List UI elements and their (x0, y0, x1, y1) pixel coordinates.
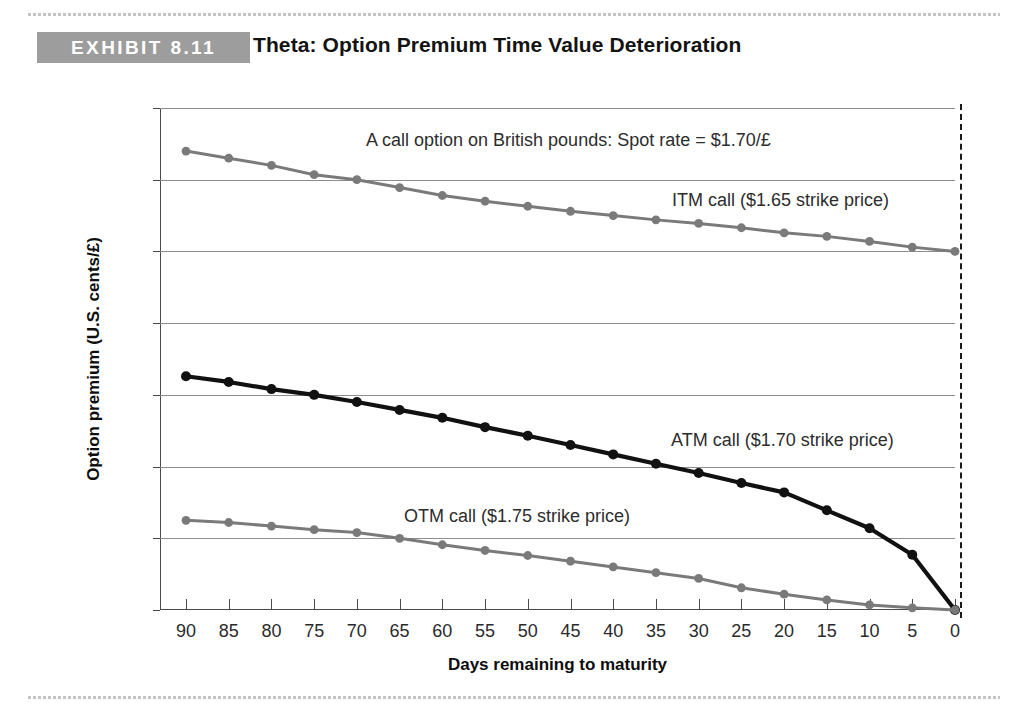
data-point-marker (908, 243, 917, 252)
data-point-marker (310, 170, 319, 179)
data-point-marker (310, 525, 319, 534)
x-axis-tick-label: 40 (593, 621, 633, 642)
data-point-marker (267, 522, 276, 531)
data-point-marker (694, 219, 703, 228)
data-point-marker (309, 390, 319, 400)
data-point-marker (181, 371, 191, 381)
data-point-marker (182, 516, 191, 525)
x-axis-tick-label: 75 (294, 621, 334, 642)
data-point-marker (822, 232, 831, 241)
data-point-marker (566, 440, 576, 450)
data-point-marker (737, 583, 746, 592)
data-point-marker (737, 223, 746, 232)
x-axis-tick-label: 30 (679, 621, 719, 642)
data-point-marker (481, 546, 490, 555)
data-point-marker (652, 568, 661, 577)
data-point-marker (609, 211, 618, 220)
data-point-marker (951, 247, 960, 256)
data-point-marker (437, 413, 447, 423)
data-point-marker (224, 377, 234, 387)
data-point-marker (907, 550, 917, 560)
data-point-marker (523, 431, 533, 441)
x-axis-tick-label: 50 (508, 621, 548, 642)
data-point-marker (224, 154, 233, 163)
data-point-marker (694, 574, 703, 583)
series-atm (181, 371, 960, 615)
data-point-marker (438, 540, 447, 549)
x-axis-tick-label: 5 (892, 621, 932, 642)
data-point-marker (865, 523, 875, 533)
data-point-marker (438, 191, 447, 200)
annotation-spot-rate: A call option on British pounds: Spot ra… (366, 130, 771, 151)
series-otm (182, 516, 960, 614)
x-axis-tick-label: 60 (422, 621, 462, 642)
data-point-marker (780, 228, 789, 237)
data-point-marker (609, 563, 618, 572)
data-point-marker (566, 557, 575, 566)
x-axis-tick-label: 80 (251, 621, 291, 642)
maturity-dashed-line (960, 104, 962, 618)
x-axis-tick-label: 35 (636, 621, 676, 642)
data-point-marker (908, 603, 917, 612)
y-axis-tick-mark (153, 538, 160, 539)
data-point-marker (395, 405, 405, 415)
data-point-marker (395, 534, 404, 543)
x-axis-tick-label: 10 (850, 621, 890, 642)
data-point-marker (651, 459, 661, 469)
data-point-marker (182, 147, 191, 156)
x-axis-tick-label: 20 (764, 621, 804, 642)
chart-plot-area: 0.01.02.03.04.05.06.07.0 908580757065605… (160, 108, 955, 610)
annotation-atm-label: ATM call ($1.70 strike price) (671, 430, 894, 451)
data-point-marker (822, 596, 831, 605)
x-axis-title: Days remaining to maturity (160, 655, 955, 675)
data-point-marker (779, 487, 789, 497)
y-axis-tick-mark (153, 467, 160, 468)
series-line (186, 376, 955, 610)
x-axis-tick-label: 0 (935, 621, 975, 642)
data-point-marker (822, 505, 832, 515)
data-point-marker (608, 449, 618, 459)
data-point-marker (780, 590, 789, 599)
data-point-marker (481, 197, 490, 206)
y-axis-tick-mark (153, 180, 160, 181)
data-point-marker (523, 202, 532, 211)
page-title: Theta: Option Premium Time Value Deterio… (253, 33, 741, 57)
exhibit-page: EXHIBIT 8.11 Theta: Option Premium Time … (0, 0, 1012, 714)
y-axis-tick-mark (153, 323, 160, 324)
exhibit-badge: EXHIBIT 8.11 (37, 32, 250, 63)
data-point-marker (395, 183, 404, 192)
data-point-marker (352, 397, 362, 407)
bottom-divider-rule (28, 696, 1000, 699)
data-point-marker (523, 551, 532, 560)
y-axis-tick-mark (153, 610, 160, 611)
data-point-marker (951, 606, 960, 615)
annotation-otm-label: OTM call ($1.75 strike price) (404, 506, 630, 527)
x-axis-tick-label: 90 (166, 621, 206, 642)
x-axis-tick-label: 55 (465, 621, 505, 642)
y-axis-tick-mark (153, 108, 160, 109)
data-point-marker (566, 207, 575, 216)
series-layer (160, 108, 955, 610)
data-point-marker (266, 384, 276, 394)
data-point-marker (652, 215, 661, 224)
data-point-marker (352, 528, 361, 537)
x-axis-tick-label: 65 (380, 621, 420, 642)
top-divider-rule (28, 13, 1000, 16)
data-point-marker (352, 175, 361, 184)
annotation-itm-label: ITM call ($1.65 strike price) (672, 190, 889, 211)
data-point-marker (865, 601, 874, 610)
y-axis-tick-mark (153, 395, 160, 396)
x-axis-tick-label: 70 (337, 621, 377, 642)
data-point-marker (736, 478, 746, 488)
data-point-marker (865, 237, 874, 246)
data-point-marker (267, 161, 276, 170)
exhibit-badge-label: EXHIBIT 8.11 (71, 37, 216, 59)
x-axis-tick-label: 85 (209, 621, 249, 642)
x-axis-tick-label: 15 (807, 621, 847, 642)
x-axis-tick-label: 45 (551, 621, 591, 642)
x-axis-tick-label: 25 (721, 621, 761, 642)
y-axis-title: Option premium (U.S. cents/£) (84, 237, 104, 481)
data-point-marker (224, 518, 233, 527)
y-axis-tick-mark (153, 251, 160, 252)
data-point-marker (480, 422, 490, 432)
